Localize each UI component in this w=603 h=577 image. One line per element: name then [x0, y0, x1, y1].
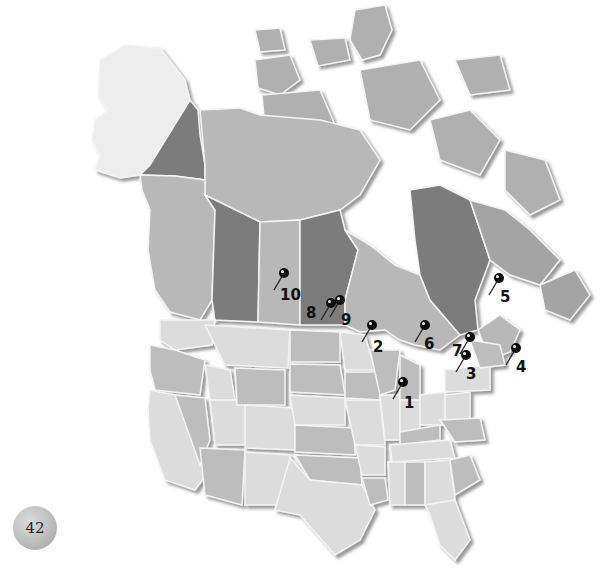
pin-head-icon	[367, 320, 377, 330]
region-northwest-territories	[200, 108, 380, 222]
pin-head-icon	[335, 295, 345, 305]
pin-head-icon	[465, 332, 475, 342]
pin-highlight	[337, 297, 340, 300]
pin-highlight	[281, 270, 284, 273]
pin-head-icon	[279, 268, 289, 278]
region-saskatchewan	[258, 220, 300, 325]
north-america-map: 12345678910	[0, 0, 603, 577]
pin-label: 1	[404, 394, 414, 412]
pin-label: 10	[280, 286, 301, 304]
pin-highlight	[467, 334, 470, 337]
pin-head-icon	[511, 343, 521, 353]
pin-highlight	[496, 275, 499, 278]
pin-label: 2	[373, 338, 383, 356]
pin-head-icon	[420, 320, 430, 330]
page-number: 42	[25, 519, 44, 537]
pin-highlight	[463, 352, 466, 355]
region-newfoundland	[540, 270, 590, 320]
pin-highlight	[513, 345, 516, 348]
pin-label: 4	[516, 358, 526, 376]
pin-head-icon	[398, 377, 408, 387]
map-pin-5[interactable]: 5	[489, 273, 510, 306]
pin-label: 7	[452, 342, 462, 360]
pin-label: 6	[424, 335, 434, 353]
pin-head-icon	[461, 350, 471, 360]
pin-label: 5	[500, 288, 510, 306]
pin-highlight	[422, 322, 425, 325]
region-british-columbia	[140, 175, 215, 320]
pin-head-icon	[326, 298, 336, 308]
pin-label: 8	[306, 304, 316, 322]
pin-highlight	[369, 322, 372, 325]
pin-label: 9	[341, 311, 351, 329]
pin-label: 3	[466, 365, 476, 383]
pin-highlight	[328, 300, 331, 303]
pin-highlight	[400, 379, 403, 382]
page-number-badge: 42	[13, 506, 57, 550]
pin-head-icon	[494, 273, 504, 283]
